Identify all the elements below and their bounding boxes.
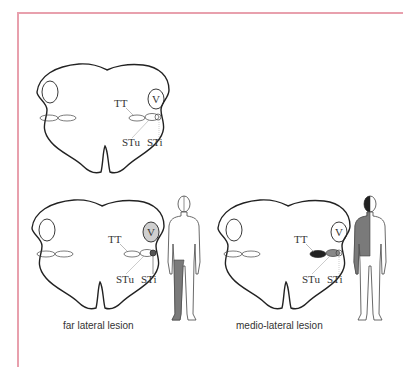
brainstem-outline <box>37 64 169 173</box>
label-stu: STu <box>116 273 134 285</box>
panel-normal: V TT STu STi <box>37 64 169 173</box>
brainstem-outline <box>32 200 164 309</box>
label-sti: STi <box>141 273 157 285</box>
label-v: V <box>335 226 343 238</box>
tt-lesion <box>310 251 326 258</box>
panel-far-lateral: V TT STu STi far lateral lesion <box>32 200 164 331</box>
panel-medio-lateral: V TT STu STi medio-lateral lesion <box>218 200 350 331</box>
label-sti: STi <box>147 136 163 148</box>
shaded-head-half <box>364 196 370 212</box>
left-tract-2 <box>58 115 76 121</box>
caption-medio-lateral: medio-lateral lesion <box>236 320 323 331</box>
label-v: V <box>152 93 160 105</box>
label-tt: TT <box>114 97 128 109</box>
tt-tract <box>129 115 145 121</box>
left-tract-1 <box>40 115 58 121</box>
label-sti: STi <box>327 273 343 285</box>
label-tt: TT <box>294 233 308 245</box>
label-stu: STu <box>302 273 320 285</box>
sti-lesion <box>150 250 156 256</box>
left-nucleus <box>42 81 58 103</box>
label-stu: STu <box>122 136 140 148</box>
caption-far-lateral: far lateral lesion <box>63 320 134 331</box>
body-figure-far-lateral <box>168 196 200 320</box>
label-tt: TT <box>108 233 122 245</box>
label-v: V <box>147 226 155 238</box>
left-nucleus <box>39 219 55 241</box>
figure-canvas: V TT STu STi V TT STu STi far lateral le… <box>0 0 403 367</box>
body-figure-medio-lateral <box>354 196 386 320</box>
